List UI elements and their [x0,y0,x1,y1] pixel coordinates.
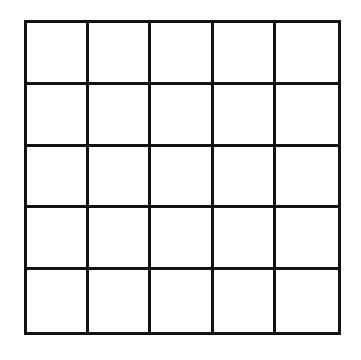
grid-cell [27,147,89,209]
grid-cell [151,147,213,209]
grid-cell [27,23,89,85]
grid-cell [276,23,338,85]
grid-cell [151,85,213,147]
grid-cell [276,147,338,209]
grid-cell [214,23,276,85]
grid-cell [151,270,213,332]
grid-cell [89,147,151,209]
grid-cell [214,270,276,332]
grid-cell [89,23,151,85]
grid-cell [27,85,89,147]
grid-cell [27,208,89,270]
grid-cell [151,208,213,270]
grid-cell [276,270,338,332]
grid-cell [214,208,276,270]
grid-5x5 [24,20,341,335]
grid-cell [151,23,213,85]
grid-cell [214,85,276,147]
grid-cell [89,208,151,270]
grid-cell [276,85,338,147]
grid-cell [214,147,276,209]
grid-cell [89,270,151,332]
grid-cell [27,270,89,332]
grid-cell [89,85,151,147]
grid-cell [276,208,338,270]
